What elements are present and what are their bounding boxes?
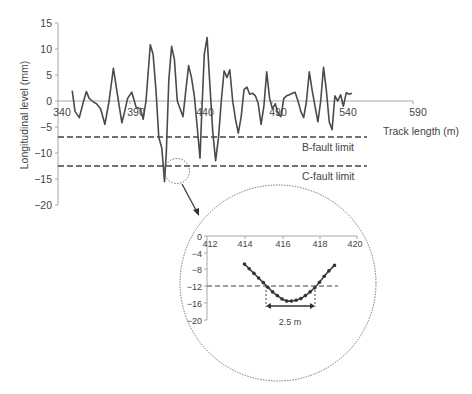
c-fault-limit-label: C-fault limit	[302, 170, 355, 182]
y-tick-labels: 15 10 5 0 −5 −10 −15 −20	[34, 17, 52, 211]
inset-x-tick-label: 418	[312, 239, 327, 249]
data-point-marker	[313, 286, 317, 290]
inset-y-tick-labels: 0 −4 −8 −12 −16 −20	[187, 232, 202, 326]
x-axis-label: Track length (m)	[383, 125, 459, 137]
y-tick-label: 10	[40, 43, 52, 55]
inset-y-tick-label: −16	[187, 299, 202, 309]
y-tick-label: −20	[34, 199, 52, 211]
inset-y-tick-label: −8	[192, 265, 202, 275]
data-point-marker	[257, 276, 261, 280]
inset-data-markers	[243, 262, 337, 303]
data-point-marker	[299, 297, 303, 301]
main-chart: 15 10 5 0 −5 −10 −15 −20 Longitudinal le…	[18, 17, 459, 216]
inset-y-tick-label: −20	[187, 316, 202, 326]
inset-x-tick-label: 420	[347, 239, 362, 249]
span-arrow-left-icon	[266, 303, 271, 309]
chart-canvas: 15 10 5 0 −5 −10 −15 −20 Longitudinal le…	[0, 0, 472, 394]
inset-magnifier-circle	[180, 185, 376, 381]
span-arrow-right-icon	[310, 303, 315, 309]
y-axis-label: Longitudinal level (mm)	[18, 61, 30, 170]
inset-y-tick-label: −4	[192, 249, 202, 259]
x-tick-label: 340	[53, 106, 71, 118]
data-point-marker	[294, 299, 298, 303]
x-tick-labels: 340 390 440 490 540 590	[53, 106, 427, 118]
x-tick-label: 540	[339, 106, 357, 118]
data-point-marker	[271, 290, 275, 294]
zoom-arrow	[182, 184, 197, 212]
data-point-marker	[276, 294, 280, 298]
inset-x-tick-label: 416	[275, 239, 290, 249]
data-point-marker	[318, 280, 322, 284]
data-point-marker	[333, 264, 337, 268]
data-point-marker	[247, 267, 251, 271]
data-point-marker	[290, 299, 294, 303]
inset-chart: 0 −4 −8 −12 −16 −20 412 414 416 418 420 …	[180, 185, 376, 381]
data-point-marker	[308, 290, 312, 294]
data-point-marker	[285, 299, 289, 303]
data-point-marker	[327, 269, 331, 273]
inset-x-tick-label: 412	[202, 239, 217, 249]
y-tick-label: 0	[46, 95, 52, 107]
inset-x-tick-label: 414	[237, 239, 252, 249]
y-tick-label: −10	[34, 147, 52, 159]
y-tick-label: 5	[46, 69, 52, 81]
inset-y-tick-label: 0	[197, 232, 202, 242]
data-point-marker	[280, 297, 284, 301]
arrow-head-icon	[193, 208, 199, 216]
data-point-marker	[266, 285, 270, 289]
y-tick-label: −15	[34, 173, 52, 185]
inset-x-tick-labels: 412 414 416 418 420	[202, 239, 362, 249]
y-tick-label: −5	[40, 121, 52, 133]
data-point-marker	[262, 281, 266, 285]
zoom-marker-circle	[165, 159, 190, 184]
b-fault-limit-label: B-fault limit	[302, 141, 354, 153]
span-label: 2.5 m	[279, 317, 302, 327]
y-tick-label: 15	[40, 17, 52, 29]
data-series-line	[72, 38, 352, 182]
data-point-marker	[304, 294, 308, 298]
x-tick-label: 590	[409, 106, 427, 118]
data-point-marker	[322, 275, 326, 279]
data-point-marker	[243, 262, 247, 266]
inset-y-tick-label: −12	[187, 282, 202, 292]
data-point-marker	[252, 272, 256, 276]
